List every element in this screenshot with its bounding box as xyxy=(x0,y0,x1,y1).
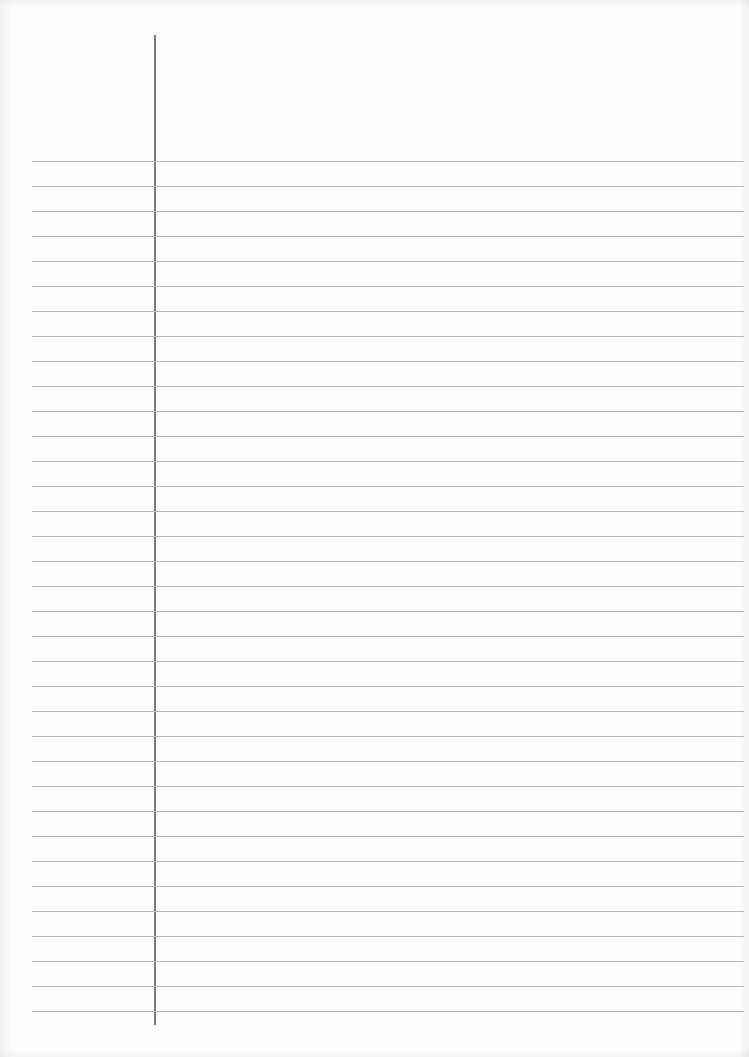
ruled-line xyxy=(32,161,744,162)
ruled-line xyxy=(32,561,744,562)
ruled-line xyxy=(32,886,744,887)
ruled-line xyxy=(32,211,744,212)
ruled-line xyxy=(32,986,744,987)
ruled-line xyxy=(32,411,744,412)
ruled-line xyxy=(32,286,744,287)
ruled-line xyxy=(32,961,744,962)
notebook-page xyxy=(0,0,749,1057)
ruled-line xyxy=(32,486,744,487)
ruled-line xyxy=(32,436,744,437)
ruled-line xyxy=(32,311,744,312)
ruled-line xyxy=(32,511,744,512)
ruled-line xyxy=(32,911,744,912)
ruled-line xyxy=(32,611,744,612)
ruled-line xyxy=(32,636,744,637)
ruled-line xyxy=(32,686,744,687)
ruled-line xyxy=(32,786,744,787)
ruled-line xyxy=(32,586,744,587)
ruled-line xyxy=(32,861,744,862)
ruled-line xyxy=(32,461,744,462)
ruled-line xyxy=(32,761,744,762)
ruled-line xyxy=(32,536,744,537)
ruled-line xyxy=(32,661,744,662)
ruled-line xyxy=(32,261,744,262)
ruled-line xyxy=(32,361,744,362)
vertical-margin-line xyxy=(154,35,156,1025)
ruled-line xyxy=(32,236,744,237)
ruled-line xyxy=(32,836,744,837)
ruled-line xyxy=(32,736,744,737)
ruled-line xyxy=(32,936,744,937)
ruled-line xyxy=(32,186,744,187)
ruled-line xyxy=(32,386,744,387)
ruled-line xyxy=(32,811,744,812)
ruled-line xyxy=(32,1011,744,1012)
ruled-line xyxy=(32,711,744,712)
ruled-line xyxy=(32,336,744,337)
